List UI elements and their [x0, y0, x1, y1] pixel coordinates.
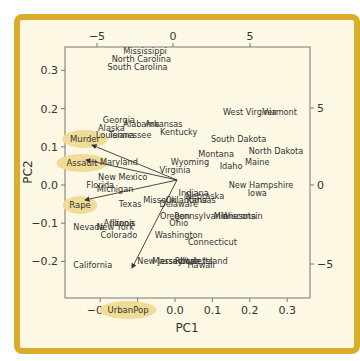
top-tick-label: −5	[89, 30, 105, 43]
state-label: California	[73, 260, 112, 270]
state-label: North Dakota	[249, 146, 304, 156]
state-label: Texas	[118, 199, 142, 209]
x-axis-label: PC1	[175, 321, 198, 335]
state-label: South Dakota	[211, 134, 266, 144]
state-label: Delaware	[159, 199, 198, 209]
state-label: Maryland	[100, 157, 138, 167]
x-tick-label: 0.2	[241, 304, 259, 317]
state-label: Iowa	[248, 188, 267, 198]
state-label: Michigan	[97, 184, 134, 194]
y-tick-label: 0.1	[41, 141, 59, 154]
top-tick-label: 5	[247, 30, 254, 43]
state-label: Tennessee	[108, 130, 152, 140]
y-tick-label: −0.1	[31, 217, 58, 230]
state-label: Connecticut	[188, 237, 238, 247]
state-label: Idaho	[220, 161, 243, 171]
state-label: Kentucky	[160, 127, 198, 137]
x-tick-label: 0.1	[204, 304, 222, 317]
variable-label-rape: Rape	[69, 200, 91, 210]
variable-label-urbanpop: UrbanPop	[107, 305, 148, 315]
state-label: Maine	[245, 157, 270, 167]
state-label: South Carolina	[108, 62, 168, 72]
state-label: Vermont	[262, 107, 297, 117]
y-tick-label: −0.2	[31, 255, 58, 268]
x-tick-label: 0.0	[166, 304, 184, 317]
x-tick-label: 0.3	[278, 304, 296, 317]
y-tick-label: 0.3	[41, 64, 59, 77]
right-tick-label: 0	[317, 179, 324, 192]
variable-label-murder: Murder	[70, 134, 101, 144]
state-labels: MississippiNorth CarolinaSouth CarolinaG…	[73, 46, 303, 270]
state-label: Colorado	[101, 230, 138, 240]
right-tick-label: 5	[317, 102, 324, 115]
state-label: Wisconsin	[222, 211, 263, 221]
y-axis-label: PC2	[21, 160, 35, 183]
right-tick-label: −5	[317, 258, 333, 271]
y-tick-label: 0.0	[41, 179, 59, 192]
state-label: Virginia	[160, 165, 191, 175]
top-tick-label: 0	[170, 30, 177, 43]
y-tick-label: 0.2	[41, 103, 59, 116]
variable-label-assault: Assault	[67, 158, 99, 168]
state-label: Hawaii	[187, 260, 214, 270]
state-label: Ohio	[169, 218, 188, 228]
